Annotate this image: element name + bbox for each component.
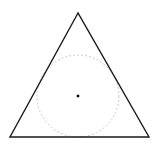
center-point [77,95,80,98]
triangle [10,13,149,137]
diagram-canvas [0,0,157,146]
